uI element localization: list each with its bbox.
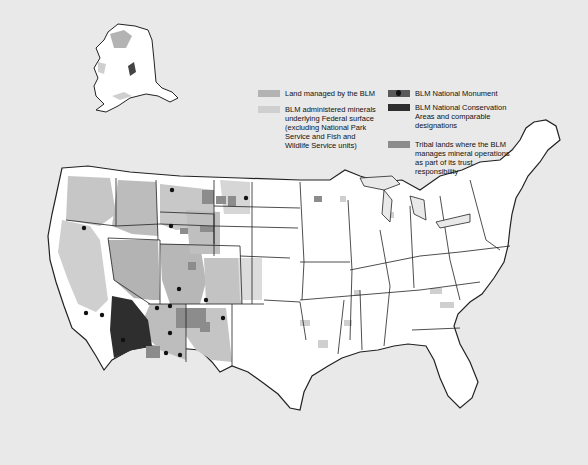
legend-label: Land managed by the BLM	[285, 89, 375, 98]
legend-label: Tribal lands where the BLM manages miner…	[415, 140, 513, 176]
legend-item-blm-land: Land managed by the BLM	[258, 89, 378, 98]
us-map	[0, 0, 588, 465]
monument-marker-icon	[396, 90, 401, 96]
legend-item-monument: BLM National Monument	[388, 89, 513, 98]
legend-item-minerals: BLM administered minerals underlying Fed…	[258, 105, 378, 150]
legend-label: BLM National Monument	[415, 89, 498, 98]
legend-item-tribal: Tribal lands where the BLM manages miner…	[388, 140, 513, 176]
conservation-swatch	[388, 104, 410, 111]
tribal-swatch	[388, 141, 410, 148]
minerals-swatch	[258, 106, 280, 113]
monument-swatch	[388, 90, 410, 97]
blm-land-swatch	[258, 90, 280, 97]
alaska-inset	[94, 24, 178, 112]
legend-item-conservation: BLM National Conservation Areas and comp…	[388, 103, 513, 130]
legend-label: BLM administered minerals underlying Fed…	[285, 105, 378, 150]
legend-label: BLM National Conservation Areas and comp…	[415, 103, 513, 130]
